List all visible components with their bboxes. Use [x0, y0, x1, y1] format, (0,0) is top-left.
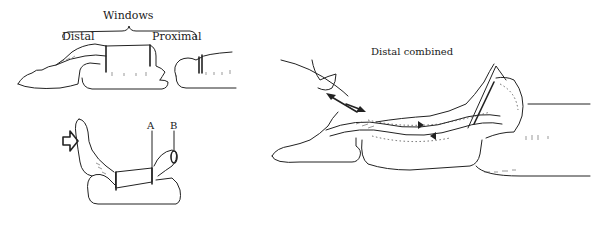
- lateral-finger-drawing: [63, 119, 181, 204]
- windows-brace: [63, 26, 197, 38]
- distal-combined-drawing: [272, 60, 590, 176]
- windows-finger-drawing: [18, 44, 236, 89]
- diagram-drawing: [0, 0, 597, 236]
